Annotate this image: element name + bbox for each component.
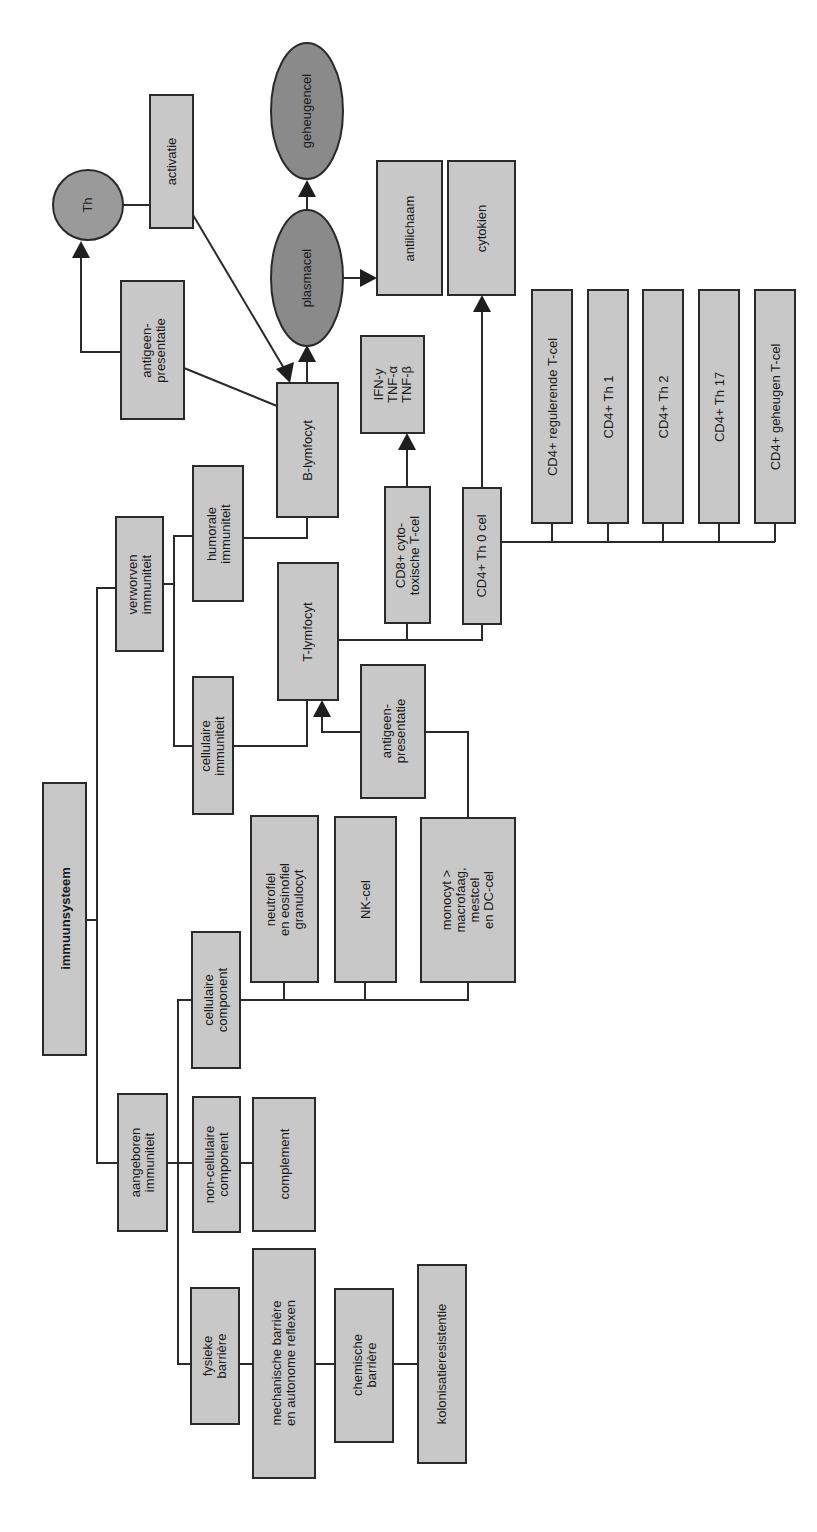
- node-neutrofiel-granulocyt: neutrofiel en eosinofiel granulocyt: [251, 817, 318, 983]
- node-non-cellulaire-component: non-cellulaire component: [193, 1097, 240, 1232]
- node-cd4-th0: CD4+ Th 0 cel: [463, 488, 501, 624]
- node-cd4-th17: CD4+ Th 17: [700, 291, 740, 524]
- node-nk-cel: NK-cel: [335, 817, 396, 982]
- node-antigeenpresentatie-t: antigeen- presentatie: [362, 665, 426, 798]
- node-t-lymfocyt: T-lymfocyt: [278, 564, 338, 701]
- node-geheugencel: geheugencel: [271, 43, 343, 179]
- node-ifn-tnf: IFN-y TNF-α TNF-β: [361, 336, 424, 433]
- node-th: Th: [53, 170, 123, 240]
- node-cd4-th1: CD4+ Th 1: [589, 291, 629, 524]
- node-cd8-cytotoxische: CD8+ cyto- toxische T-cel: [385, 488, 430, 624]
- node-fysieke-barriere: fysieke barrière: [191, 1288, 239, 1424]
- node-cellulaire-immuniteit: cellulaire immuniteit: [193, 678, 233, 815]
- node-cd4-geheugen: CD4+ geheugen T-cel: [756, 291, 796, 524]
- node-humorale-immuniteit: humorale immuniteit: [194, 467, 244, 602]
- node-mechanische-barriere: mechanische barrière en autonome reflexe…: [253, 1249, 315, 1478]
- node-verworven-immuniteit: verworven immuniteit: [116, 518, 163, 652]
- node-antigeenpresentatie-b: antigeen- presentatie: [122, 282, 185, 420]
- node-monocyt: monocyt > macrofaag, mestcel en DC-cel: [421, 818, 515, 982]
- node-kolonisatieresistentie: kolonisatieresistentie: [418, 1265, 466, 1463]
- node-b-lymfocyt: B-lymfocyt: [277, 384, 338, 518]
- node-immuunsysteem: immuunsysteem: [44, 783, 87, 1055]
- node-aangeboren-immuniteit: aangeboren immuniteit: [118, 1094, 167, 1231]
- node-activatie: activatie: [150, 95, 193, 228]
- node-cd4-th2: CD4+ Th 2: [644, 291, 684, 524]
- node-chemische-barriere: chemische barrière: [336, 1289, 394, 1442]
- node-antilichaam: antilichaam: [377, 162, 442, 296]
- node-cytokien: cytokien: [448, 162, 515, 296]
- node-cellulaire-component: cellulaire component: [192, 932, 240, 1068]
- node-plasmacel: plasmacel: [271, 210, 343, 346]
- node-complement: complement: [254, 1098, 316, 1231]
- node-cd4-regulerende: CD4+ regulerende T-cel: [533, 291, 573, 524]
